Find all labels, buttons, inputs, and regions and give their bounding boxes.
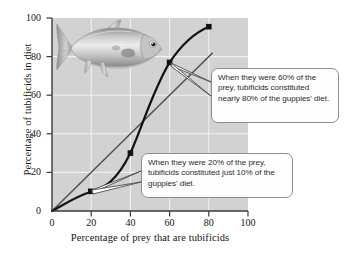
data-point-40-30	[128, 150, 134, 156]
y-tick-label-0: 0	[19, 205, 41, 216]
guppy-diet-chart-figure: 100 80 60 40 20 0 0 20 40 60 80 100 Perc…	[0, 0, 351, 257]
y-axis-ticks	[47, 18, 53, 172]
x-tick-label-0: 0	[40, 217, 64, 228]
x-axis-title: Percentage of prey that are tubificids	[52, 232, 248, 243]
x-tick-label-80: 80	[197, 217, 221, 228]
annotation-callout-60-percent: When they were 60% of the prey, tubifici…	[211, 68, 339, 123]
x-tick-label-20: 20	[79, 217, 103, 228]
data-point-80-95	[206, 24, 212, 30]
x-tick-label-40: 40	[118, 217, 142, 228]
y-axis-title: Percentage of tubificids in diet	[22, 15, 33, 205]
x-tick-label-100: 100	[236, 217, 260, 228]
x-axis-ticks	[91, 211, 248, 217]
x-tick-label-60: 60	[158, 217, 182, 228]
annotation-callout-20-percent: When they were 20% of the prey, tubifici…	[141, 153, 293, 198]
